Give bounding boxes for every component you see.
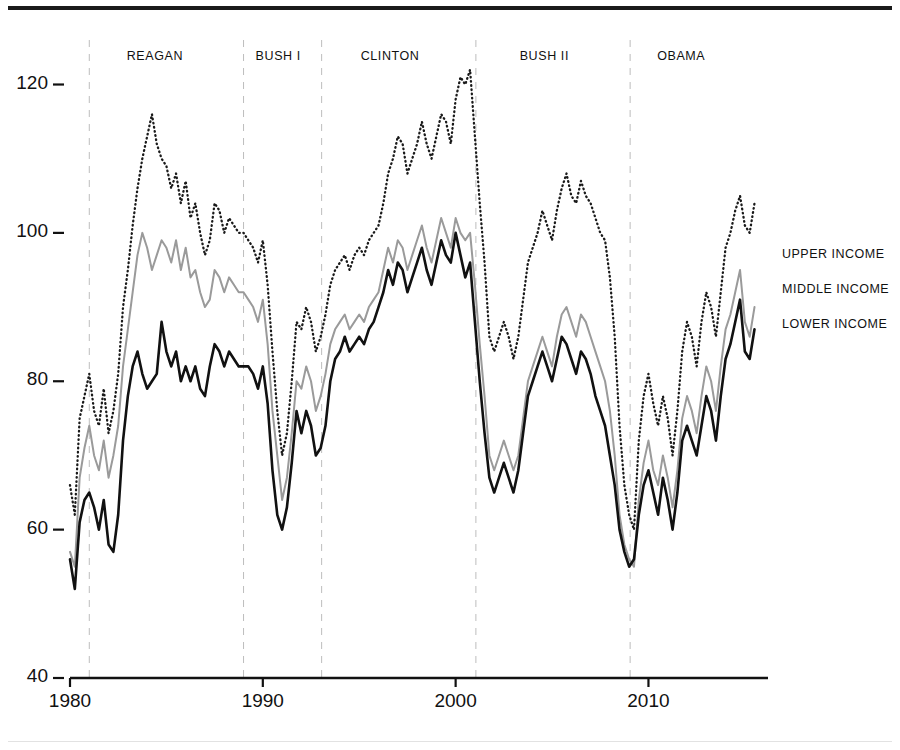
era-label-clinton: CLINTON — [361, 49, 420, 63]
era-label-reagan: REAGAN — [127, 49, 183, 63]
x-axis-label-1980: 1980 — [30, 690, 110, 712]
era-label-bush-i: BUSH I — [256, 49, 301, 63]
axis-group — [53, 85, 768, 687]
x-axis-label-1990: 1990 — [223, 690, 303, 712]
y-axis-label-40: 40 — [0, 665, 48, 687]
series-group — [70, 70, 755, 589]
y-axis-label-80: 80 — [0, 368, 48, 390]
line-chart-canvas — [0, 0, 900, 750]
chart-figure: REAGANBUSH ICLINTONBUSH IIOBAMA UPPER IN… — [0, 0, 900, 750]
legend-label-lower-income: LOWER INCOME — [782, 317, 887, 331]
series-line-lower-income — [70, 233, 755, 589]
y-axis-label-60: 60 — [0, 517, 48, 539]
series-line-middle-income — [70, 218, 755, 567]
era-label-bush-ii: BUSH II — [520, 49, 569, 63]
legend-label-middle-income: MIDDLE INCOME — [782, 282, 889, 296]
legend-label-upper-income: UPPER INCOME — [782, 247, 885, 261]
era-label-obama: OBAMA — [657, 49, 705, 63]
y-axis-label-120: 120 — [0, 72, 48, 94]
x-axis-label-2010: 2010 — [608, 690, 688, 712]
x-axis-label-2000: 2000 — [416, 690, 496, 712]
y-axis-label-100: 100 — [0, 220, 48, 242]
